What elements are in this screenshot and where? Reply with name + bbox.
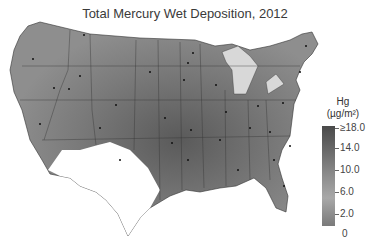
us-outline (10, 22, 318, 236)
legend-tick (335, 128, 339, 129)
legend-title: Hg (µg/m²) (318, 96, 368, 120)
legend-title-variable: Hg (318, 96, 368, 108)
legend-tick (335, 170, 339, 171)
legend-tick-label: 0 (342, 229, 348, 239)
legend-colorbar (322, 126, 335, 226)
legend-tick-label: 2.0 (340, 209, 354, 219)
legend-title-units: (µg/m²) (318, 108, 368, 120)
legend-tick-label: 14.0 (340, 143, 359, 153)
legend-tick-label: 10.0 (340, 165, 359, 175)
legend-tick (335, 192, 339, 193)
map-title: Total Mercury Wet Deposition, 2012 (0, 6, 370, 21)
legend-tick-label: 6.0 (340, 187, 354, 197)
legend-tick-label: ≥18.0 (340, 123, 365, 133)
us-mercury-map (0, 0, 370, 242)
legend-tick (335, 214, 339, 215)
legend-tick (335, 148, 339, 149)
